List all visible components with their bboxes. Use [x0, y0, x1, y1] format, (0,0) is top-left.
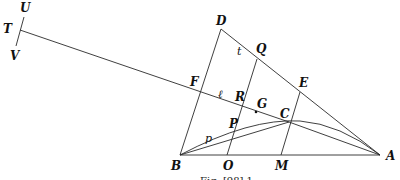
segment-uv — [16, 17, 24, 46]
label-g: G — [257, 97, 267, 111]
label-p: P — [228, 117, 239, 131]
label-o: O — [223, 159, 234, 173]
label-t-small: t — [237, 45, 242, 58]
label-e: E — [298, 76, 309, 90]
figure-caption: Fig. [98] 1 — [200, 175, 253, 180]
label-q: Q — [256, 42, 267, 56]
label-l-small: ℓ — [218, 88, 223, 101]
label-b: B — [170, 159, 181, 173]
label-f: F — [189, 75, 200, 89]
label-m: M — [274, 159, 289, 173]
label-c: C — [280, 107, 290, 121]
label-a: A — [385, 149, 395, 163]
line-qo — [227, 59, 257, 155]
line-t-to-c — [20, 30, 289, 122]
label-d: D — [215, 14, 227, 28]
line-ca — [289, 122, 380, 155]
label-p-small: p — [205, 132, 212, 145]
label-v: V — [10, 49, 21, 63]
label-t: T — [3, 22, 13, 36]
label-r: R — [234, 90, 245, 104]
line-bd — [180, 29, 221, 155]
point-g-dot — [255, 111, 258, 114]
label-u: U — [20, 1, 32, 15]
geometry-diagram: U T V D Q E F R G C P B O M A t ℓ p Fig.… — [0, 0, 400, 180]
